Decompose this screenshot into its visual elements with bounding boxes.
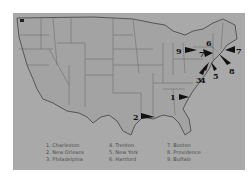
legend-item: 3. Philadelphia — [46, 156, 109, 163]
marker-7[interactable]: 7 — [225, 46, 242, 56]
svg-text:5: 5 — [213, 71, 219, 81]
marker-8[interactable]: 8 — [219, 54, 235, 76]
svg-text:1: 1 — [170, 92, 176, 102]
seattle-marker — [20, 19, 24, 22]
legend-item: 6. Hartford — [109, 156, 167, 163]
legend-item: 4. Trenton — [109, 142, 167, 149]
legend-item: 5. New York — [109, 149, 167, 156]
legend-item: 2. New Orleans — [46, 149, 109, 156]
svg-text:8: 8 — [229, 66, 235, 76]
legend-item: 8. Providence — [167, 149, 227, 156]
legend: 1. Charleston 4. Trenton 7. Boston 2. Ne… — [46, 142, 236, 163]
svg-text:2: 2 — [133, 112, 139, 122]
marker-5[interactable]: 5 — [211, 62, 219, 81]
svg-text:6: 6 — [206, 38, 212, 48]
svg-text:7: 7 — [236, 46, 242, 56]
legend-item: 7. Boston — [167, 142, 227, 149]
svg-text:9: 9 — [176, 46, 182, 56]
map-panel: 1 2 3 4 5 6 7 8 — [13, 13, 245, 170]
legend-item: 9. Buffalo — [167, 156, 227, 163]
svg-text:7: 7 — [199, 49, 205, 59]
legend-item: 1. Charleston — [46, 142, 109, 149]
svg-text:4: 4 — [200, 75, 206, 85]
